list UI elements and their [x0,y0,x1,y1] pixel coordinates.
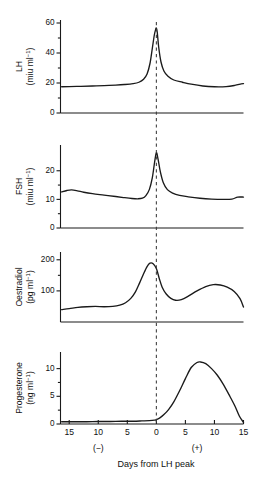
multi-panel-line-chart: 0204060LH(miu ml−1)01020FSH(miu ml−1)100… [0,0,259,477]
x-axis-title: Days from LH peak [117,459,195,469]
y-axis-title-progesterone: Progesterone [14,362,24,414]
x-tick-label: 5 [125,427,130,437]
series-line-progesterone [62,362,244,423]
y-tick-label: 200 [41,255,55,264]
y-tick-label: 0 [50,108,55,117]
y-axis-unit-lh: (miu ml−1) [25,47,35,85]
y-tick-label: 5 [50,391,55,400]
x-tick-label: 5 [183,427,188,437]
y-tick-label: 10 [45,364,55,373]
y-tick-label: 40 [45,48,55,57]
x-tick-label: 15 [239,427,249,437]
y-tick-label: 100 [41,286,55,295]
series-line-lh [62,28,244,87]
y-axis-title-lh: LH [14,61,24,72]
y-axis-unit-progesterone: (ng ml−1) [25,371,35,405]
x-axis-positive-sign: (+) [192,443,203,453]
x-tick-label: 10 [210,427,220,437]
series-line-oestradiol [62,263,244,310]
y-axis-unit-oestradiol: (pg ml−1) [25,270,35,304]
y-axis-title-oestradiol: Oestradiol [14,267,24,306]
y-tick-label: 20 [45,166,55,175]
y-tick-label: 10 [45,195,55,204]
y-axis-unit-fsh: (miu ml−1) [25,167,35,205]
panel-fsh: 01020FSH(miu ml−1) [14,145,244,232]
hormone-cycle-figure: 0204060LH(miu ml−1)01020FSH(miu ml−1)100… [0,0,259,477]
x-tick-label: 10 [93,427,103,437]
y-tick-label: 60 [45,18,55,27]
x-axis-negative-sign: (−) [93,443,104,453]
y-tick-label: 0 [50,223,55,232]
y-tick-label: 20 [45,78,55,87]
panel-oestradiol: 100200Oestradiol(pg ml−1) [14,252,244,322]
x-tick-label: 15 [64,427,74,437]
x-tick-label: 0 [154,427,159,437]
series-line-fsh [62,153,244,200]
y-tick-label: 0 [50,419,55,428]
panel-progesterone: 0510Progesterone(ng ml−1)15105051015 [14,352,248,437]
panel-lh: 0204060LH(miu ml−1) [14,18,244,117]
y-axis-title-fsh: FSH [14,178,24,195]
